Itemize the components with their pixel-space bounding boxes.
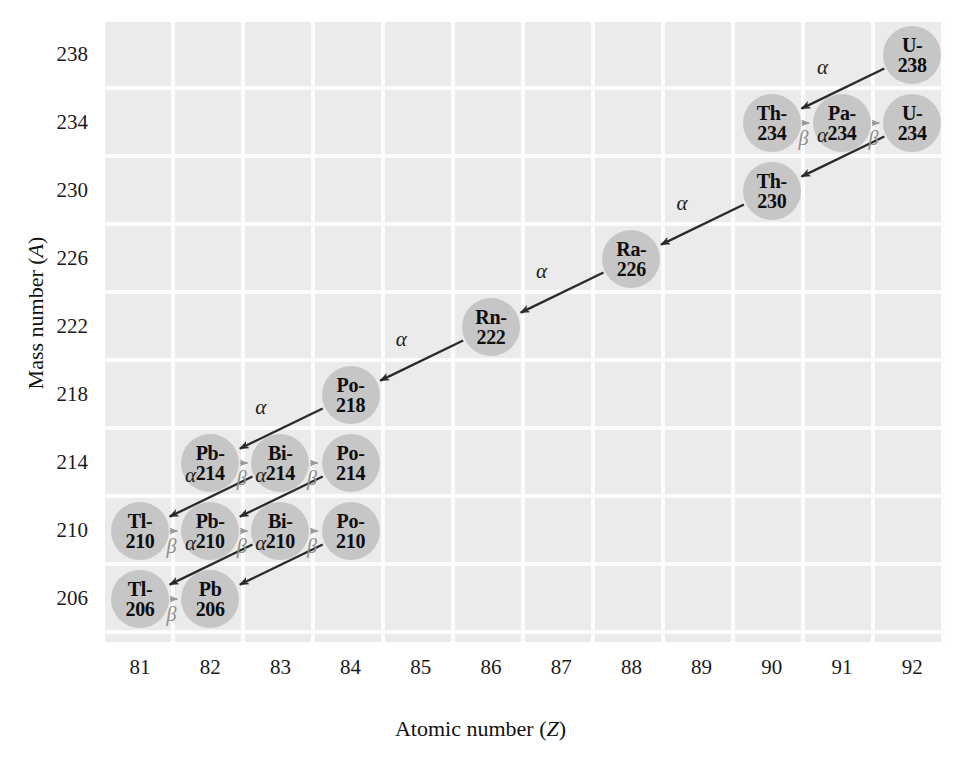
nuclide-element: Bi-	[268, 443, 293, 463]
nuclide-element: Po-	[337, 511, 365, 531]
nuclide-element: Th-	[757, 171, 787, 191]
nuclide-mass: 214	[266, 463, 295, 483]
decay-series-chart: U-238Th-234Pa-234U-234Th-230Ra-226Rn-222…	[0, 0, 961, 770]
decay-label-alpha-po-218-to-pb-214: α	[255, 395, 266, 420]
decay-label-alpha-po-214-to-pb-210: α	[255, 463, 266, 488]
nuclide-element: Po-	[337, 443, 365, 463]
nuclide-element: Bi-	[268, 511, 293, 531]
decay-label-beta-th-234-to-pa-234: β	[798, 127, 808, 150]
nuclide-mass: 210	[336, 531, 365, 551]
decay-arrow-alpha-ra-226-to-rn-222	[521, 273, 604, 313]
decay-label-alpha-ra-226-to-rn-222: α	[536, 259, 547, 284]
nuclide-mass: 218	[336, 395, 365, 415]
nuclide-tl-210[interactable]: Tl-210	[111, 502, 169, 560]
decay-label-alpha-bi-214-to-tl-210: α	[185, 463, 196, 488]
nuclide-element: Tl-	[128, 511, 153, 531]
decay-label-beta-bi-214-to-po-214: β	[307, 467, 317, 490]
decay-label-alpha-u-234-to-th-230: α	[817, 123, 828, 148]
nuclide-rn-222[interactable]: Rn-222	[462, 298, 520, 356]
nuclide-ra-226[interactable]: Ra-226	[602, 230, 660, 288]
nuclide-element: Rn-	[475, 307, 506, 327]
nuclide-mass: 214	[336, 463, 365, 483]
nuclide-element: Tl-	[128, 579, 153, 599]
decay-label-alpha-rn-222-to-po-218: α	[396, 327, 407, 352]
nuclide-mass: 206	[125, 599, 154, 619]
decay-label-beta-bi-210-to-po-210: β	[307, 535, 317, 558]
nuclide-mass: 210	[196, 531, 225, 551]
nuclide-th-234[interactable]: Th-234	[743, 94, 801, 152]
decay-arrow-alpha-th-230-to-ra-226	[661, 205, 744, 245]
decay-arrow-alpha-rn-222-to-po-218	[380, 341, 463, 381]
nuclide-po-210[interactable]: Po-210	[322, 502, 380, 560]
nuclide-pb-206[interactable]: Pb206	[181, 570, 239, 628]
nuclide-mass: 214	[196, 463, 225, 483]
nuclide-element: Ra-	[616, 239, 646, 259]
decay-label-alpha-th-230-to-ra-226: α	[677, 191, 688, 216]
nuclide-mass: 234	[827, 123, 856, 143]
nuclide-mass: 206	[196, 599, 225, 619]
nuclide-po-214[interactable]: Po-214	[322, 434, 380, 492]
nuclide-mass: 238	[898, 55, 927, 75]
nuclide-po-218[interactable]: Po-218	[322, 366, 380, 424]
decay-label-alpha-bi-210-to-tl-206: α	[185, 531, 196, 556]
nuclide-u-234[interactable]: U-234	[883, 94, 941, 152]
nuclide-mass: 210	[125, 531, 154, 551]
nuclide-mass: 230	[757, 191, 786, 211]
nuclide-element: Pb-	[196, 443, 225, 463]
nuclide-u-238[interactable]: U-238	[883, 26, 941, 84]
nuclide-element: U-	[902, 103, 923, 123]
nuclide-element: Th-	[757, 103, 787, 123]
nuclide-element: Po-	[337, 375, 365, 395]
nuclide-mass: 222	[476, 327, 505, 347]
nuclide-mass: 234	[757, 123, 786, 143]
decay-label-alpha-po-210-to-pb-206: α	[255, 531, 266, 556]
decay-label-beta-pb-210-to-bi-210: β	[237, 535, 247, 558]
nuclide-element: U-	[902, 35, 923, 55]
nuclide-element: Pb	[199, 579, 222, 599]
nuclide-mass: 234	[898, 123, 927, 143]
nuclide-tl-206[interactable]: Tl-206	[111, 570, 169, 628]
nuclide-element: Pb-	[196, 511, 225, 531]
decay-label-alpha-u-238-to-th-234: α	[817, 55, 828, 80]
decay-label-beta-pa-234-to-u-234: β	[869, 127, 879, 150]
nuclide-th-230[interactable]: Th-230	[743, 162, 801, 220]
decay-label-beta-tl-210-to-pb-210: β	[167, 535, 177, 558]
decay-label-beta-tl-206-to-pb-206: β	[167, 603, 177, 626]
nuclide-mass: 226	[617, 259, 646, 279]
nuclide-element: Pa-	[828, 103, 856, 123]
decay-label-beta-pb-214-to-bi-214: β	[237, 467, 247, 490]
nuclide-mass: 210	[266, 531, 295, 551]
